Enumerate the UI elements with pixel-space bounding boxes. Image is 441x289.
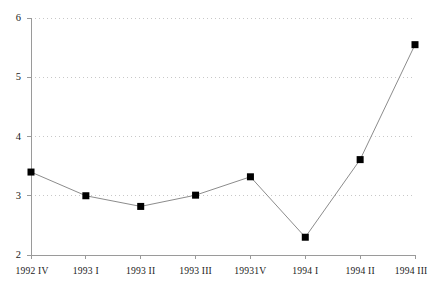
data-point-marker [247, 173, 254, 180]
x-axis-tick-label: 1994 I [292, 266, 318, 276]
y-axis-tick-label: 4 [5, 132, 21, 143]
x-axis-ticks [31, 255, 415, 259]
y-axis-tick-label: 6 [5, 13, 21, 24]
y-axis-tick-label: 5 [5, 72, 21, 83]
data-point-marker [28, 169, 35, 176]
data-point-marker [302, 234, 309, 241]
y-axis-ticks [27, 18, 31, 255]
x-axis-tick-label: 1992 IV [15, 266, 48, 276]
y-axis-tick-label: 2 [5, 250, 21, 261]
y-axis-tick-label: 3 [5, 191, 21, 202]
x-axis-tick-label: 1994 II [345, 266, 374, 276]
data-point-marker [357, 156, 364, 163]
x-axis-tick-label: 1993 I [73, 266, 99, 276]
x-axis-tick-label: 1993 II [126, 266, 155, 276]
data-point-marker [137, 203, 144, 210]
x-axis-tick-label: 1994 III [395, 266, 428, 276]
series-markers [28, 41, 419, 241]
plot-area [0, 0, 441, 289]
data-point-marker [412, 41, 419, 48]
line-chart: 23456 1992 IV1993 I1993 II1993 III19931V… [0, 0, 441, 289]
x-axis-tick-label: 19931V [234, 266, 266, 276]
data-point-marker [192, 192, 199, 199]
series-line [31, 45, 415, 238]
data-point-marker [82, 192, 89, 199]
x-axis-tick-label: 1993 III [179, 266, 212, 276]
data-line [31, 45, 415, 238]
gridlines [31, 18, 415, 196]
